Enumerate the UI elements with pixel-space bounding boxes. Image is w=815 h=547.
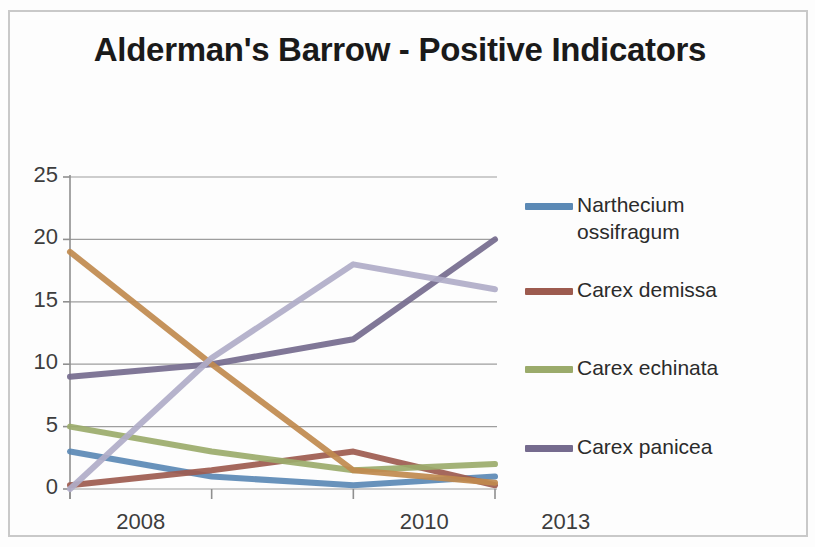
legend-color-swatch [525, 366, 573, 373]
legend-item-label: Carex demissa [577, 277, 717, 304]
x-axis-tick-label: 2010 [379, 509, 469, 535]
line-chart-canvas [0, 0, 815, 547]
legend-color-swatch [525, 203, 573, 210]
y-axis-tick-label: 5 [8, 412, 58, 438]
legend-item[interactable]: Narthecium ossifragum [525, 192, 792, 246]
gridlines [70, 177, 497, 489]
legend-item-label: Carex panicea [577, 434, 712, 461]
legend-item[interactable]: Carex echinata [525, 355, 718, 382]
y-axis-tick-label: 10 [8, 349, 58, 375]
legend-item-label: Carex echinata [577, 355, 718, 382]
plot-area [0, 0, 815, 547]
legend-item[interactable]: Carex demissa [525, 277, 717, 304]
y-axis-tick-label: 20 [8, 224, 58, 250]
y-axis-tick-label: 0 [8, 474, 58, 500]
axes [63, 175, 495, 499]
legend-item-label: Narthecium ossifragum [577, 192, 792, 246]
y-axis-tick-label: 25 [8, 162, 58, 188]
y-axis-tick-label: 15 [8, 287, 58, 313]
x-axis-tick-label: 2008 [96, 509, 186, 535]
legend-color-swatch [525, 288, 573, 295]
legend-item[interactable]: Carex panicea [525, 434, 712, 461]
x-axis-tick-label: 2013 [521, 509, 611, 535]
legend-color-swatch [525, 445, 573, 452]
series-line-unlabeled-5 [70, 264, 495, 489]
figure-frame: Alderman's Barrow - Positive Indicators … [0, 0, 815, 547]
